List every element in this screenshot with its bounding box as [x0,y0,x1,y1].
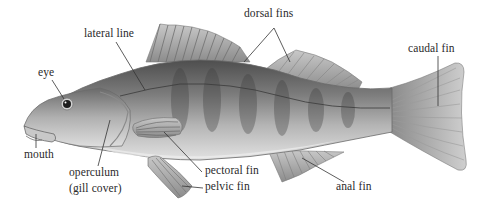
leader-dorsal-fin-1 [244,28,274,62]
pelvic-fin-shape [148,156,192,198]
anal-fin-shape [268,150,344,182]
first-dorsal-fin [146,24,250,62]
label-pelvic-fin: pelvic fin [205,181,250,193]
caudal-fin [390,63,466,170]
label-caudal-fin: caudal fin [408,43,455,55]
label-pectoral-fin: pectoral fin [205,165,259,177]
label-anal-fin: anal fin [336,181,372,193]
label-mouth: mouth [24,149,54,161]
leader-dorsal-fin-2 [274,28,290,62]
fish-head [24,88,130,147]
leader-eye [52,80,64,99]
label-dorsal-fins: dorsal fins [244,8,293,20]
fish-anatomy-diagram: lateral line eye dorsal fins caudal fin … [0,0,487,207]
label-eye: eye [38,67,54,79]
label-gill-cover: (gill cover) [69,183,122,195]
label-operculum: operculum [69,167,119,179]
label-lateral-line: lateral line [84,28,134,40]
